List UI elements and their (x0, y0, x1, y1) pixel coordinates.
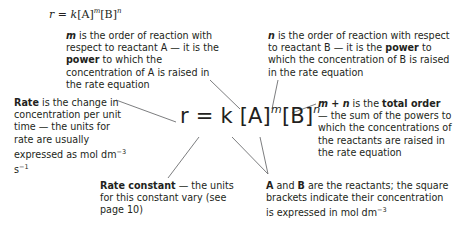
annotation-n-order: n is the order of reaction with respect … (268, 30, 450, 79)
rate-equation-serif: r = k[A]m[B]n (49, 7, 122, 21)
annotation-rate-constant: Rate constant — the units for this const… (100, 180, 240, 217)
leader-line-k (168, 137, 199, 178)
leader-line-a (232, 137, 268, 174)
leader-line-b (260, 137, 268, 174)
annotation-reactants: A and B are the reactants; the square br… (266, 180, 452, 220)
annotation-rate: Rate is the change in concentration per … (14, 97, 132, 177)
rate-equation-main: r = k [A]m[B]n (180, 104, 321, 128)
annotation-total-order: m + n is the total order — the sum of th… (318, 98, 452, 159)
annotation-m-order: m is the order of reaction with respect … (66, 30, 226, 91)
